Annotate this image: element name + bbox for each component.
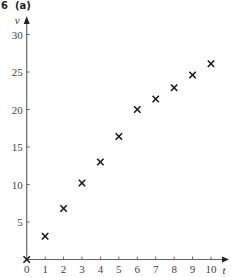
x-tick-label: 5 (116, 263, 122, 275)
y-tick-label: 15 (12, 141, 24, 153)
data-point-marker (153, 96, 159, 102)
x-tick-label: 2 (61, 263, 67, 275)
x-tick-label: 9 (190, 263, 196, 275)
x-tick-label: 3 (79, 263, 85, 275)
data-point-marker (42, 233, 48, 239)
data-point-marker (189, 72, 195, 78)
data-point-marker (97, 159, 103, 165)
y-axis-arrow-icon (24, 16, 30, 24)
y-tick-label: 20 (12, 104, 24, 116)
y-tick-label: 10 (12, 179, 24, 191)
x-tick-label: 10 (206, 263, 218, 275)
data-point-marker (60, 205, 66, 211)
x-tick-label: 4 (98, 263, 104, 275)
data-point-marker (79, 180, 85, 186)
data-point-marker (171, 85, 177, 91)
x-tick-label: 0 (24, 263, 30, 275)
data-point-marker (116, 133, 122, 139)
scatter-chart: 01234567891051015202530vt (0, 0, 231, 277)
x-axis-arrow-icon (222, 257, 229, 263)
x-axis-label: t (222, 264, 226, 276)
x-tick-label: 6 (135, 263, 141, 275)
data-point-marker (134, 106, 140, 112)
y-tick-label: 5 (17, 216, 23, 228)
x-tick-label: 1 (42, 263, 48, 275)
y-tick-label: 30 (12, 29, 24, 41)
y-tick-label: 25 (12, 66, 24, 78)
x-tick-label: 8 (171, 263, 177, 275)
y-axis-label: v (15, 14, 20, 26)
x-tick-label: 7 (153, 263, 159, 275)
data-point-marker (208, 61, 214, 67)
